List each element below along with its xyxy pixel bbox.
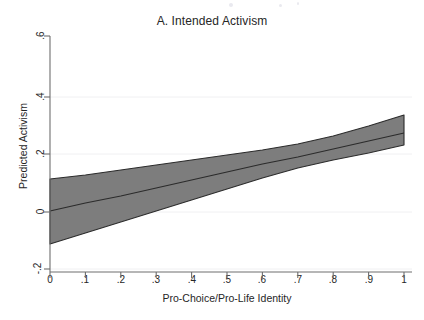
scan-artifact (297, 2, 299, 5)
x-axis-ticks (50, 272, 404, 278)
plot-canvas (0, 0, 424, 320)
scan-artifact (229, 3, 233, 7)
scan-artifact (279, 4, 282, 7)
figure-container: A. Intended Activism Predicted Activism … (0, 0, 424, 320)
confidence-band (50, 115, 404, 244)
y-axis-ticks (44, 36, 50, 269)
